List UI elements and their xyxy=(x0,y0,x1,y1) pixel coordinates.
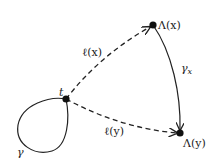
label-gamma-loop: γ xyxy=(17,146,24,159)
edge-loop-gamma xyxy=(18,98,68,152)
label-t: t xyxy=(59,86,64,99)
edge-l-x xyxy=(66,27,150,99)
diagram-canvas: t Λ(x) Λ(y) ℓ(x) ℓ(y) γx γ xyxy=(0,0,220,163)
edge-gamma-x xyxy=(153,25,180,130)
node-t xyxy=(62,95,69,102)
label-gamma-x: γx xyxy=(181,62,193,76)
label-l-x: ℓ(x) xyxy=(82,46,102,59)
label-l-y: ℓ(y) xyxy=(104,125,124,138)
label-lambda-x: Λ(x) xyxy=(157,19,181,32)
node-lambda-x xyxy=(149,21,156,28)
label-lambda-y: Λ(y) xyxy=(182,137,206,150)
node-lambda-y xyxy=(176,129,183,136)
